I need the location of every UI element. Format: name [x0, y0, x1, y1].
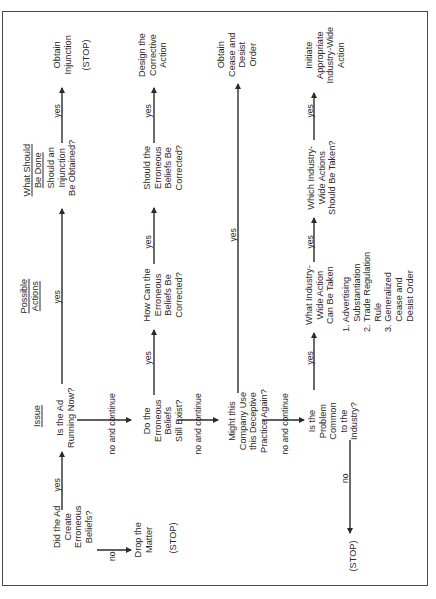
node-should-injunction-be-obtained: Should anInjunctionBe Obtained?	[46, 140, 78, 196]
node-text-line: (STOP)	[348, 541, 359, 572]
edge-label-text: yes	[143, 235, 154, 248]
edge-label-yes: yes	[305, 235, 316, 248]
node-text-line: Wide Actions	[317, 141, 328, 215]
node-text-line: Is the Ad	[55, 388, 66, 448]
edge-label-yes: yes	[52, 478, 63, 491]
node-text-line: Should an	[46, 140, 57, 196]
node-text-line: Rule	[373, 252, 384, 332]
edge-label-text: yes	[52, 104, 63, 117]
node-text-line: Matter	[143, 522, 154, 557]
node-text-line: Company Use	[238, 389, 249, 453]
node-text-line: Which Industry-	[306, 141, 317, 215]
node-how-can-beliefs-be-corrected: How Can theErroneousBeliefs BeCorrected?	[142, 268, 184, 321]
node-text-line: Substantiation	[352, 252, 363, 332]
header-line: Be Done	[32, 144, 43, 197]
edge-label-text: no and continue	[280, 393, 291, 454]
edge-label-no-and-continue: no and continue	[280, 393, 291, 454]
node-text-line: this Deceptive	[248, 389, 259, 453]
edge-label-no: no	[107, 551, 118, 561]
node-text-line: Beliefs Be	[163, 268, 174, 321]
node-text-line: Injunction	[57, 140, 68, 196]
node-text-line: Beliefs Be	[163, 145, 174, 190]
node-might-company-use-practice-again: Might thisCompany Usethis DeceptivePract…	[227, 389, 269, 453]
node-text-line: Corrective	[148, 33, 159, 77]
edge-label-text: yes	[143, 351, 154, 364]
node-text-line: Practice Again?	[259, 389, 270, 453]
node-text-line: (STOP)	[81, 40, 92, 71]
node-text-line: to the	[338, 402, 349, 440]
node-which-industry-wide-actions: Which Industry-Wide ActionsShould Be Tak…	[306, 141, 338, 215]
header-line: Actions	[29, 279, 40, 314]
node-did-ad-create-erroneous-beliefs: Did the AdCreateErroneousBeliefs?	[52, 506, 94, 548]
node-text-line: Cease and	[394, 252, 405, 332]
node-text-line: Erroneous	[153, 400, 164, 442]
node-text-line: Beliefs?	[84, 506, 95, 548]
node-text-line: Erroneous	[153, 145, 164, 190]
header-issue-text: Issue	[32, 405, 43, 427]
edge-label-no-and-continue: no and continue	[107, 393, 118, 454]
node-text-line: How Can the	[142, 268, 153, 321]
node-text-line: Be Obtained?	[67, 140, 78, 196]
node-text-line: Do the	[142, 400, 153, 442]
node-text-line: Obtain	[216, 33, 227, 77]
header-what-should-be-done: What Should Be Done	[22, 144, 43, 197]
node-text-line: 2. Trade Regulation	[362, 252, 373, 332]
edge-label-text: no and continue	[107, 393, 118, 454]
edge-label-no-and-continue: no and continue	[193, 393, 204, 454]
node-text-line: Did the Ad	[52, 506, 63, 548]
node-text-line: Should Be Taken?	[327, 141, 338, 215]
node-stop-2: (STOP)	[81, 40, 92, 71]
edge-label-text: no and continue	[193, 393, 204, 454]
node-text-line: Beliefs	[163, 400, 174, 442]
node-stop-3: (STOP)	[348, 541, 359, 572]
node-text-line: Design the	[137, 33, 148, 77]
edge-label-yes: yes	[305, 351, 316, 364]
node-text-line: Injunction	[62, 35, 73, 74]
edge-label-yes: yes	[143, 351, 154, 364]
node-text-line: Desist Order	[405, 252, 416, 332]
node-text-line: Create	[63, 506, 74, 548]
edge-label-text: no	[340, 473, 351, 483]
node-drop-the-matter: Drop theMatter	[133, 522, 154, 557]
node-text-line: Running Now?	[65, 388, 76, 448]
industry-action-options-list: 1. Advertising Substantiation2. Trade Re…	[341, 252, 415, 332]
node-text-line: Obtain	[52, 35, 63, 74]
edge-label-yes: yes	[52, 290, 63, 303]
node-text-line: Still Exist?	[174, 400, 185, 442]
edge-label-text: yes	[228, 228, 239, 241]
node-text-line: Problem	[317, 402, 328, 440]
node-text-line: Corrected?	[174, 145, 185, 190]
node-text-line: Erroneous	[73, 506, 84, 548]
node-text-line: 1. Advertising	[341, 252, 352, 332]
node-text-line: Cease and	[227, 33, 238, 77]
edge-label-text: yes	[305, 235, 316, 248]
node-text-line: Order	[248, 33, 259, 77]
edge-label-text: yes	[143, 104, 154, 117]
node-is-problem-common-to-industry: Is theProblemCommonto theIndustry?	[307, 402, 360, 440]
node-text-line: Is the	[307, 402, 318, 440]
edge-label-text: yes	[52, 290, 63, 303]
node-text-line: 3. Generalized	[383, 252, 394, 332]
node-stop-1: (STOP)	[168, 523, 179, 554]
node-text-line: Industry-Wide	[325, 27, 336, 84]
node-text-line: Desist	[237, 33, 248, 77]
node-should-beliefs-be-corrected: Should theErroneousBeliefs BeCorrected?	[142, 145, 184, 190]
node-text-line: Corrected?	[174, 268, 185, 321]
edge-label-yes: yes	[228, 228, 239, 241]
node-text-line: Drop the	[133, 522, 144, 557]
node-text-line: Erroneous	[153, 268, 164, 321]
node-text-line: What Industry-	[304, 265, 315, 325]
node-text-line: (STOP)	[168, 523, 179, 554]
edge-label-no: no	[340, 473, 351, 483]
node-text-line: Appropriate	[315, 27, 326, 84]
node-text-line: Common	[328, 402, 339, 440]
node-do-beliefs-still-exist: Do theErroneousBeliefsStill Exist?	[142, 400, 184, 442]
node-design-corrective-action: Design theCorrectiveAction	[137, 33, 169, 77]
edge-label-text: yes	[305, 351, 316, 364]
node-text-line: Initiate	[304, 27, 315, 84]
node-is-ad-running-now: Is the AdRunning Now?	[55, 388, 76, 448]
node-what-industry-wide-action: What Industry-Wide ActionCan Be Taken	[304, 265, 336, 325]
node-text-line: Might this	[227, 389, 238, 453]
node-text-line: Action	[158, 33, 169, 77]
node-text-line: Should the	[142, 145, 153, 190]
